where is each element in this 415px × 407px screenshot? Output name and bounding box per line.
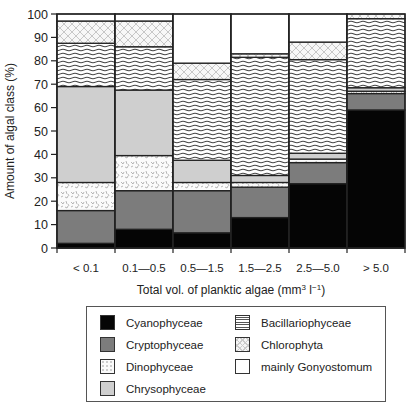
legend-label: Dinophyceae [126, 361, 193, 373]
bar-segment [173, 80, 231, 161]
x-tick-label: < 0.1 [73, 262, 99, 274]
legend-item-bacillariophyceae: Bacillariophyceae [235, 315, 351, 330]
bar-segment [57, 243, 115, 248]
bar-segment [289, 14, 347, 42]
bar-segment [173, 182, 231, 190]
legend-label: Bacillariophyceae [261, 317, 351, 329]
bar-segment [289, 60, 347, 154]
legend-item-chrysophyceae: Chrysophyceae [100, 381, 206, 396]
bar-segment [57, 211, 115, 244]
y-tick-label: 40 [34, 148, 48, 162]
legend-swatch [100, 381, 115, 396]
legend-item-mainly-gonyostomum: mainly Gonyostomum [235, 359, 372, 374]
y-tick-label: 80 [34, 54, 48, 68]
legend-item-dinophyceae: Dinophyceae [100, 359, 193, 374]
bar-segment [347, 110, 405, 248]
bar-segment [115, 47, 173, 90]
x-tick-label: 1.5—2.5 [238, 262, 281, 274]
y-tick-label: 90 [34, 31, 48, 45]
bar-segment [289, 163, 347, 184]
y-tick-label: 60 [34, 101, 48, 115]
bar-1 [115, 14, 173, 248]
bar-segment [173, 160, 231, 182]
legend-label: mainly Gonyostomum [261, 361, 372, 373]
bar-segment [231, 218, 289, 248]
legend-swatch [235, 337, 250, 352]
bar-2 [173, 14, 231, 248]
y-tick-label: 100 [27, 8, 48, 22]
x-tick-label: > 5.0 [363, 262, 389, 274]
legend-item-cyanophyceae: Cyanophyceae [100, 315, 203, 330]
bar-segment [115, 229, 173, 248]
bar-segment [57, 21, 115, 43]
legend-label: Chlorophyta [261, 339, 323, 351]
legend-swatch [235, 359, 250, 374]
legend-item-cryptophyceae: Cryptophyceae [100, 337, 203, 352]
x-tick-label: 2.5—5.0 [296, 262, 339, 274]
legend-swatch [235, 315, 250, 330]
x-tick-label: 0.1—0.5 [122, 262, 165, 274]
y-tick-label: 70 [34, 78, 48, 92]
bar-0 [57, 14, 115, 248]
bar-segment [115, 90, 173, 156]
legend-label: Cyanophyceae [126, 317, 203, 329]
bar-segment [173, 14, 231, 63]
bar-4 [289, 14, 347, 248]
y-tick-label: 50 [34, 125, 48, 139]
y-tick-label: 10 [34, 218, 48, 232]
bar-segment [231, 182, 289, 187]
legend: CyanophyceaeCryptophyceaeDinophyceaeChry… [86, 306, 386, 402]
legend-swatch [100, 359, 115, 374]
bar-5 [347, 14, 405, 248]
bar-segment [57, 14, 115, 21]
legend-swatch [100, 337, 115, 352]
bar-segment [173, 191, 231, 233]
legend-swatch [100, 315, 115, 330]
x-axis-label: Total vol. of planktic algae (mm3 l−1) [137, 283, 325, 298]
bar-segment [57, 43, 115, 86]
bar-segment [57, 87, 115, 183]
y-tick-label: 20 [34, 195, 48, 209]
bar-segment [231, 187, 289, 217]
y-tick-label: 0 [41, 242, 48, 256]
bar-segment [57, 182, 115, 210]
bar-segment [173, 233, 231, 248]
legend-label: Chrysophyceae [126, 383, 206, 395]
bar-3 [231, 14, 289, 248]
bar-segment [115, 191, 173, 230]
bar-segment [289, 42, 347, 60]
bar-segment [115, 156, 173, 191]
y-axis-label: Amount of algal class (%) [3, 63, 17, 199]
bar-segment [173, 63, 231, 79]
bar-segment [231, 57, 289, 175]
bar-segment [347, 94, 405, 110]
bar-segment [115, 14, 173, 21]
bar-segment [115, 21, 173, 47]
bar-segment [347, 19, 405, 88]
x-tick-label: 0.5—1.5 [180, 262, 223, 274]
stacked-bar-chart: 0102030405060708090100< 0.10.1—0.50.5—1.… [0, 0, 415, 300]
bar-segment [289, 184, 347, 248]
y-tick-label: 30 [34, 171, 48, 185]
legend-label: Cryptophyceae [126, 339, 203, 351]
bar-segment [347, 14, 405, 19]
legend-item-chlorophyta: Chlorophyta [235, 337, 323, 352]
bar-segment [231, 175, 289, 182]
bar-segment [289, 153, 347, 159]
bar-segment [231, 14, 289, 54]
plot-bars [57, 14, 405, 248]
